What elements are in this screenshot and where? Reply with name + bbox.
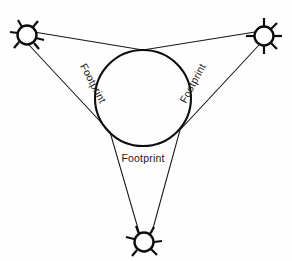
satellite-bottom-body (135, 233, 154, 252)
satellite-top-right[interactable] (246, 18, 282, 54)
footprint-label-bottom: Footprint (121, 152, 164, 164)
satellite-top-right-body (255, 27, 274, 46)
footprint-label-right: Footprint (177, 61, 208, 105)
satellite-top-left[interactable] (10, 20, 44, 49)
footprint-circle (95, 50, 191, 146)
diagram-canvas: Footprint Footprint Footprint (0, 0, 292, 261)
satellite-top-left-body (18, 26, 37, 45)
satellite-bottom[interactable] (126, 226, 162, 256)
beam-lines-group (29, 32, 259, 232)
footprint-diagram: Footprint Footprint Footprint (0, 0, 292, 261)
beam-line-top-left-to-top-right (34, 32, 255, 50)
footprint-label-left: Footprint (78, 61, 109, 105)
